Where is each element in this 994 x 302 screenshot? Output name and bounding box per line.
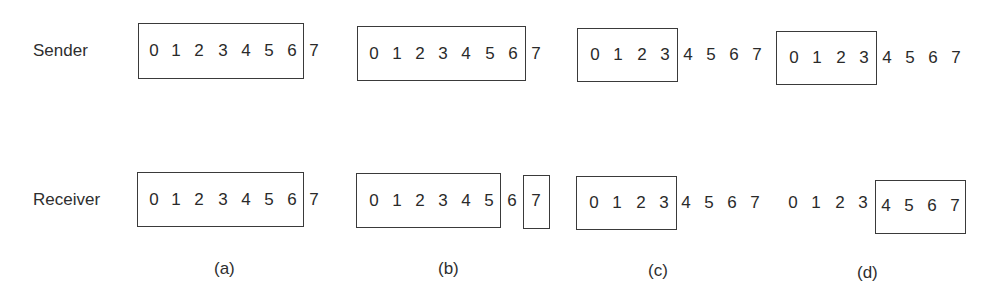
seq-number: 2 — [834, 193, 846, 213]
seq-number: 1 — [611, 193, 623, 213]
panel-caption: (d) — [857, 263, 878, 283]
seq-number: 4 — [240, 41, 252, 61]
seq-number: 5 — [703, 193, 715, 213]
seq-number: 7 — [530, 44, 542, 64]
seq-number: 3 — [437, 191, 449, 211]
seq-number: 7 — [749, 193, 761, 213]
seq-number: 6 — [726, 193, 738, 213]
seq-number: 2 — [193, 190, 205, 210]
seq-number: 3 — [659, 45, 671, 65]
seq-number: 0 — [787, 193, 799, 213]
seq-number: 4 — [680, 193, 692, 213]
panel-caption: (b) — [438, 259, 459, 279]
seq-number: 6 — [286, 190, 298, 210]
seq-number: 1 — [170, 190, 182, 210]
seq-number: 1 — [612, 45, 624, 65]
seq-number: 3 — [437, 44, 449, 64]
seq-number: 7 — [308, 190, 320, 210]
seq-number: 0 — [368, 191, 380, 211]
seq-number: 0 — [148, 190, 160, 210]
seq-number: 6 — [286, 41, 298, 61]
seq-number: 5 — [263, 41, 275, 61]
seq-number: 6 — [926, 196, 938, 216]
seq-number: 0 — [368, 44, 380, 64]
seq-number: 7 — [751, 45, 763, 65]
seq-number: 4 — [460, 44, 472, 64]
seq-number: 2 — [636, 45, 648, 65]
seq-number: 3 — [217, 190, 229, 210]
seq-number: 6 — [507, 44, 519, 64]
seq-number: 1 — [811, 48, 823, 68]
seq-number: 2 — [835, 48, 847, 68]
seq-number: 2 — [193, 41, 205, 61]
seq-number: 6 — [728, 45, 740, 65]
seq-number: 3 — [658, 193, 670, 213]
seq-number: 4 — [880, 196, 892, 216]
seq-number: 1 — [391, 191, 403, 211]
seq-number: 7 — [949, 196, 961, 216]
seq-number: 6 — [927, 48, 939, 68]
seq-number: 0 — [589, 45, 601, 65]
seq-number: 5 — [903, 196, 915, 216]
seq-number: 0 — [148, 41, 160, 61]
seq-number: 2 — [414, 44, 426, 64]
seq-number: 5 — [263, 190, 275, 210]
seq-number: 5 — [705, 45, 717, 65]
seq-number: 5 — [904, 48, 916, 68]
seq-number: 1 — [170, 41, 182, 61]
seq-number: 4 — [460, 191, 472, 211]
seq-number: 6 — [506, 191, 518, 211]
panel-caption: (a) — [214, 259, 235, 279]
seq-number: 1 — [810, 193, 822, 213]
seq-number: 4 — [682, 45, 694, 65]
seq-number: 1 — [391, 44, 403, 64]
seq-number: 4 — [881, 48, 893, 68]
seq-number: 2 — [635, 193, 647, 213]
receiver-row-label: Receiver — [33, 190, 100, 210]
seq-number: 3 — [857, 193, 869, 213]
seq-number: 4 — [240, 190, 252, 210]
seq-number: 7 — [308, 41, 320, 61]
seq-number: 3 — [217, 41, 229, 61]
seq-number: 0 — [588, 193, 600, 213]
seq-number: 5 — [484, 44, 496, 64]
seq-number: 7 — [950, 48, 962, 68]
seq-number: 0 — [788, 48, 800, 68]
seq-number: 2 — [414, 191, 426, 211]
seq-number: 3 — [858, 48, 870, 68]
seq-number: 7 — [530, 191, 542, 211]
seq-number: 5 — [483, 191, 495, 211]
sender-row-label: Sender — [33, 41, 88, 61]
panel-caption: (c) — [648, 261, 668, 281]
